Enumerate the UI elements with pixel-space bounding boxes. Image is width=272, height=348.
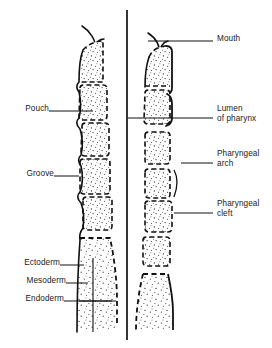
arch-segment-left-4 [80, 159, 110, 194]
label-endoderm: Endoderm [4, 294, 64, 304]
label-ectoderm: Ectoderm [4, 258, 60, 268]
label-pharyngeal-arch-line2: arch [217, 159, 233, 168]
arch-block-right-5 [145, 201, 172, 232]
label-lumen-of-pharynx-line1: Lumen [217, 104, 243, 113]
label-lumen-of-pharynx-line2: of pharynx [217, 114, 256, 123]
label-groove: Groove [6, 169, 54, 179]
arch-segment-left-5 [83, 197, 112, 230]
arch-block-right-2 [144, 90, 170, 124]
arch-segment-left-3 [81, 123, 109, 156]
label-mouth: Mouth [217, 34, 240, 44]
arch-segment-left-1 [79, 41, 103, 82]
left-panel-surface-view [77, 26, 117, 332]
arch-segment-left-2 [79, 85, 107, 120]
label-pharyngeal-cleft: Pharyngeal cleft [217, 199, 272, 220]
body-wall-left [77, 238, 117, 330]
right-panel-sectioned-view [136, 33, 177, 330]
arch-block-right-3 [145, 132, 170, 164]
label-pharyngeal-cleft-line1: Pharyngeal [217, 199, 259, 208]
label-pharyngeal-arch-line1: Pharyngeal [217, 149, 259, 158]
label-pouch: Pouch [10, 104, 49, 114]
pharyngeal-arch-bracket [174, 170, 177, 197]
label-pharyngeal-arch: Pharyngeal arch [217, 149, 272, 170]
label-lumen-of-pharynx: Lumen of pharynx [217, 104, 272, 125]
arch-block-right-6 [143, 237, 170, 266]
label-pharyngeal-cleft-line2: cleft [217, 209, 233, 218]
arch-block-right-1 [145, 46, 172, 86]
leader-lines [49, 41, 213, 301]
label-mesoderm: Mesoderm [4, 276, 66, 286]
arch-block-right-4 [145, 169, 170, 198]
